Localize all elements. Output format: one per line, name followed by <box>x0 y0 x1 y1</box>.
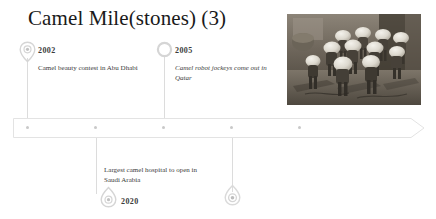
timeline-marker-2005[interactable] <box>156 41 173 63</box>
timeline-marker-2020[interactable] <box>100 186 117 208</box>
page-title: Camel Mile(stones) (3) <box>28 5 226 31</box>
axis-tick-2 <box>94 126 97 129</box>
event-year-2002: 2002 <box>38 46 56 55</box>
event-year-2020: 2020 <box>121 197 139 206</box>
event-description-2002: Camel beauty contest in Abu Dhabi <box>38 64 142 74</box>
event-description-2005: Camel robot jockeys come out in Qatar <box>175 64 279 83</box>
event-year-2005: 2005 <box>175 46 193 55</box>
axis-tick-1 <box>26 126 29 129</box>
timeline-axis <box>13 118 425 138</box>
camel-robot-jockeys-photo <box>287 14 421 105</box>
axis-tick-3 <box>162 126 165 129</box>
timeline-marker-2002[interactable] <box>19 41 36 63</box>
axis-tick-4 <box>230 126 233 129</box>
axis-tick-5 <box>298 126 301 129</box>
timeline-marker-empty[interactable] <box>224 184 241 206</box>
event-description-2020: Largest camel hospital to open in Saudi … <box>104 166 208 185</box>
slide-canvas: Camel Mile(stones) (3) 2002 Camel beauty… <box>0 0 436 219</box>
